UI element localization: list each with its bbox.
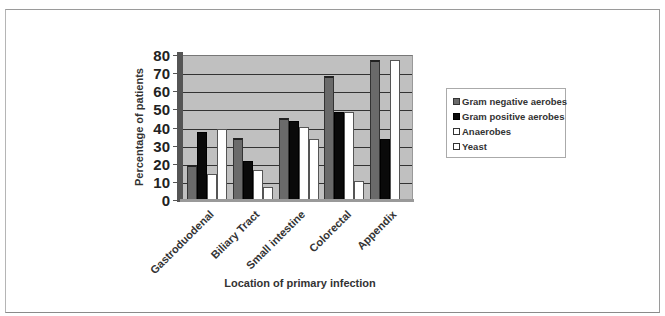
bar-anae (344, 112, 354, 201)
legend-swatch (453, 98, 460, 105)
bar-gpos (243, 161, 253, 201)
y-tick-label: 40 (140, 121, 170, 136)
bar-gneg (187, 165, 197, 201)
legend-item: Gram negative aerobes (453, 96, 567, 107)
legend-swatch (453, 113, 460, 120)
bar-anae (207, 174, 217, 201)
legend-label: Gram positive aerobes (462, 111, 564, 122)
bar-yeast (217, 129, 227, 202)
y-tick-label: 0 (140, 193, 170, 208)
bar-gneg (279, 118, 289, 201)
y-tick-label: 10 (140, 175, 170, 190)
y-tick-label: 20 (140, 157, 170, 172)
bar-yeast (354, 181, 364, 201)
y-tick-label: 60 (140, 84, 170, 99)
legend-swatch (453, 128, 460, 135)
legend-swatch (453, 143, 460, 150)
bar-gneg (324, 76, 334, 201)
legend-label: Anaerobes (462, 126, 511, 137)
legend-label: Yeast (462, 141, 487, 152)
legend-item: Gram positive aerobes (453, 111, 564, 122)
bar-gneg (370, 60, 380, 201)
bar-gpos (380, 139, 390, 201)
bar-anae (390, 60, 400, 201)
plot-area (183, 55, 413, 201)
bar-gpos (197, 132, 207, 201)
y-tick-label: 50 (140, 102, 170, 117)
y-tick-label: 70 (140, 66, 170, 81)
legend-item: Anaerobes (453, 126, 511, 137)
y-tick-label: 30 (140, 139, 170, 154)
bar-gpos (289, 121, 299, 201)
x-axis-label: Location of primary infection (215, 277, 385, 289)
legend-item: Yeast (453, 141, 487, 152)
bar-anae (253, 170, 263, 201)
bar-gpos (334, 112, 344, 201)
legend-label: Gram negative aerobes (462, 96, 567, 107)
y-tick-label: 80 (140, 48, 170, 63)
bar-gneg (233, 138, 243, 201)
plot-floor (180, 199, 414, 202)
bar-yeast (309, 139, 319, 201)
legend: Gram negative aerobesGram positive aerob… (446, 88, 566, 158)
bar-anae (299, 127, 309, 201)
